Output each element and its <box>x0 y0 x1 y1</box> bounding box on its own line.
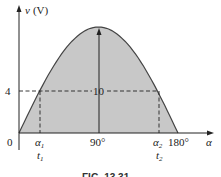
x-axis-label: α <box>206 136 212 148</box>
tick-180-label: 180° <box>168 136 189 148</box>
figure-caption: FIG. 13.31 <box>82 172 130 177</box>
alpha2-label: α2 <box>153 136 163 150</box>
t2-label: t2 <box>156 149 163 163</box>
peak-value-label: 10 <box>93 85 105 97</box>
x-axis-arrow-icon <box>207 131 214 136</box>
origin-label: 0 <box>7 136 13 148</box>
level-label: 4 <box>5 85 11 97</box>
t1-label: t1 <box>37 149 44 163</box>
alpha1-label: α1 <box>35 136 44 150</box>
y-axis-arrow-icon <box>17 5 22 12</box>
sine-waveform-diagram: v(V) 4 10 0 90° 180° α α1 α2 t1 t2 FIG. … <box>0 0 221 177</box>
y-axis-label: v(V) <box>25 4 48 17</box>
tick-90-label: 90° <box>90 136 105 148</box>
